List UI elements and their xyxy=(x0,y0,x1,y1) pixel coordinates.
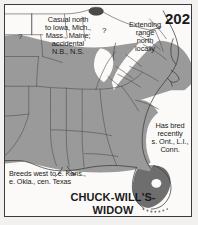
question-mark-central: ? xyxy=(102,26,106,35)
map-graphic xyxy=(5,5,191,216)
range-map-figure: Casual north to Iowa, Mich., Mass., Main… xyxy=(0,0,198,225)
question-mark-west: ? xyxy=(18,32,22,41)
map-frame: Casual north to Iowa, Mich., Mass., Main… xyxy=(4,4,192,217)
great-lakes-water xyxy=(89,7,103,15)
lake-okeechobee xyxy=(151,179,161,188)
